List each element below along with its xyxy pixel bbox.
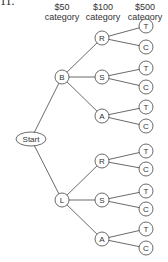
- node-label: C: [143, 165, 149, 174]
- node-label: S: [99, 73, 104, 82]
- start-label: Start: [23, 135, 41, 144]
- node-label: C: [143, 122, 149, 131]
- tree-diagram: Start B L R S A R S A T C T C T C T C T …: [0, 0, 168, 262]
- node-label: T: [144, 64, 149, 73]
- tree-edges: [31, 26, 146, 248]
- node-label: R: [99, 157, 105, 166]
- node-label: R: [99, 34, 105, 43]
- node-label: S: [99, 196, 104, 205]
- node-label: A: [99, 235, 105, 244]
- node-label: C: [143, 244, 149, 253]
- node-label: C: [143, 83, 149, 92]
- node-label: T: [144, 147, 149, 156]
- node-label: T: [144, 187, 149, 196]
- node-label: C: [143, 43, 149, 52]
- node-label: C: [143, 205, 149, 214]
- node-label: L: [60, 196, 65, 205]
- node-label: A: [99, 112, 105, 121]
- node-label: T: [144, 103, 149, 112]
- node-label: B: [59, 73, 64, 82]
- node-label: T: [144, 22, 149, 31]
- node-label: T: [144, 225, 149, 234]
